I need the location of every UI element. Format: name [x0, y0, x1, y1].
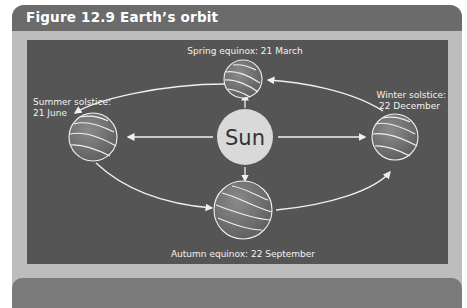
- label-summer-1: Summer solstice:: [33, 97, 111, 107]
- label-winter-1: Winter solstice:: [377, 90, 446, 100]
- earth-winter: [372, 114, 418, 160]
- earth-spring: [224, 60, 262, 98]
- label-autumn: Autumn equinox: 22 September: [171, 249, 315, 259]
- label-spring: Spring equinox: 21 March: [187, 46, 302, 56]
- label-winter-2: 22 December: [379, 101, 440, 111]
- label-summer-2: 21 June: [33, 108, 67, 118]
- sun: Sun: [217, 109, 273, 165]
- earth-autumn: [214, 181, 272, 239]
- sun-label: Sun: [225, 126, 265, 150]
- earth-summer: [69, 113, 117, 161]
